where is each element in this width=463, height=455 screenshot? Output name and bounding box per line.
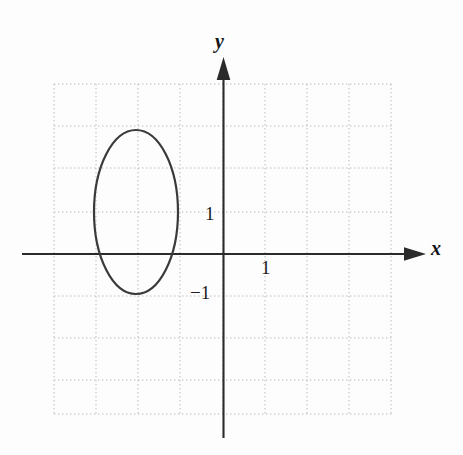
x-axis-label: x [431, 238, 441, 258]
x-tick-label-positive-one: 1 [261, 258, 271, 277]
y-tick-label-negative-one: −1 [190, 283, 210, 302]
y-axis-label: y [215, 31, 224, 51]
x-axis-arrow-icon [404, 247, 426, 261]
graph-figure: y x 1 −1 1 [0, 0, 463, 455]
coordinate-plane [0, 0, 463, 455]
y-axis [217, 57, 231, 438]
y-tick-label-positive-one: 1 [205, 204, 215, 223]
y-axis-arrow-icon [217, 57, 231, 80]
